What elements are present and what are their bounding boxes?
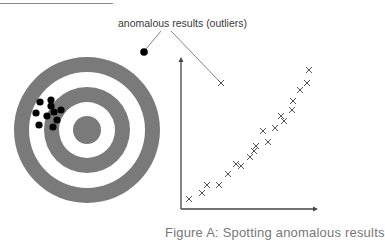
hit-dot <box>35 121 42 128</box>
data-marker <box>247 154 253 160</box>
data-marker <box>289 107 295 113</box>
data-marker <box>306 67 312 73</box>
leader-line <box>171 31 218 80</box>
hit-dot <box>43 112 50 119</box>
hit-dot <box>49 123 56 130</box>
x-axis-arrow <box>313 207 318 212</box>
hit-dot <box>57 106 64 113</box>
data-marker <box>290 98 296 104</box>
data-marker <box>253 143 259 149</box>
data-marker <box>297 87 303 93</box>
data-marker <box>251 148 257 154</box>
data-marker <box>233 161 239 167</box>
data-marker <box>238 163 244 169</box>
data-marker <box>272 125 278 131</box>
hit-dot <box>53 116 60 123</box>
data-marker <box>204 182 210 188</box>
data-marker <box>265 139 271 145</box>
target-ring <box>73 116 101 144</box>
outlier-marker <box>218 80 224 86</box>
outlier-dot <box>140 48 148 56</box>
data-marker <box>225 171 231 177</box>
leader-line <box>146 31 161 49</box>
data-marker <box>216 182 222 188</box>
data-marker <box>304 80 310 86</box>
hit-dot <box>36 98 43 105</box>
hit-dot <box>50 108 57 115</box>
y-axis-arrow <box>179 57 184 62</box>
hit-dot <box>32 109 39 116</box>
data-marker <box>260 128 266 134</box>
annotation-label: anomalous results (outliers) <box>118 17 247 29</box>
figure-caption: Figure A: Spotting anomalous results <box>165 225 385 240</box>
data-marker <box>199 190 205 196</box>
data-marker <box>186 196 192 202</box>
